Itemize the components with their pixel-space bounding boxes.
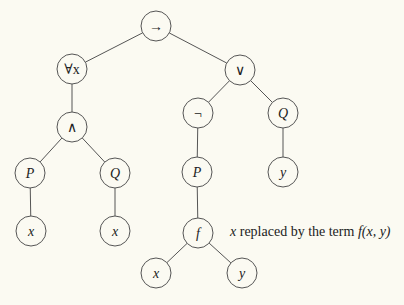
node-label: ∀x	[64, 62, 79, 77]
edge-or-not	[208, 81, 229, 103]
tree-node-f: f	[183, 218, 213, 248]
node-label: x	[152, 266, 160, 281]
tree-node-and: ∧	[57, 112, 87, 142]
edge-f-y2	[209, 243, 231, 263]
edge-and-P1	[40, 138, 62, 162]
tree-node-x1: x	[16, 216, 46, 246]
node-label: y	[278, 165, 287, 180]
tree-node-or: ∨	[225, 55, 255, 85]
edge-and-Q2	[82, 138, 105, 162]
tree-node-P1: P	[15, 158, 45, 188]
node-label: ¬	[194, 106, 202, 121]
tree-node-Q1: Q	[268, 98, 298, 128]
tree-node-x2: x	[100, 216, 130, 246]
node-label: Q	[278, 106, 288, 121]
tree-node-y1: y	[268, 157, 298, 187]
tree-node-y2: y	[227, 258, 257, 288]
tree-nodes: →∀x∨∧¬QPQPyxxfxy	[15, 11, 298, 288]
tree-canvas: →∀x∨∧¬QPQPyxxfxy	[0, 0, 404, 305]
edge-root-forall	[85, 33, 142, 62]
tree-node-x3: x	[141, 258, 171, 288]
node-label: x	[111, 224, 119, 239]
tree-node-P2: P	[182, 157, 212, 187]
edge-P2-f	[197, 187, 198, 218]
node-label: ∧	[67, 120, 77, 135]
node-label: y	[237, 266, 246, 281]
edge-or-Q1	[251, 81, 273, 103]
substitution-annotation: x replaced by the term f(x, y)	[230, 224, 391, 240]
node-label: P	[25, 166, 35, 181]
node-label: x	[27, 224, 35, 239]
node-label: Q	[110, 166, 120, 181]
tree-node-not: ¬	[183, 98, 213, 128]
edge-root-or	[169, 33, 226, 63]
edge-f-x3	[167, 243, 187, 262]
tree-node-root: →	[141, 11, 171, 41]
tree-node-forall: ∀x	[57, 54, 87, 84]
tree-node-Q2: Q	[100, 158, 130, 188]
node-label: →	[149, 19, 163, 34]
annotation-term: f(x, y)	[358, 224, 391, 239]
node-label: P	[192, 165, 202, 180]
node-label: ∨	[235, 63, 245, 78]
annotation-text: replaced by the term	[236, 224, 358, 239]
syntax-tree-diagram: →∀x∨∧¬QPQPyxxfxy x replaced by the term …	[0, 0, 404, 305]
